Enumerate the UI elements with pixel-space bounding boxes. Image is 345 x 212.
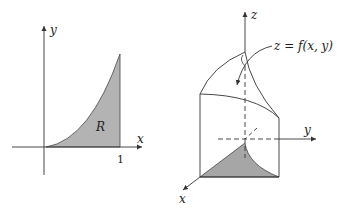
x-axis-label: x (179, 192, 186, 206)
surface-equation-label: z = f(x, y) (273, 39, 333, 53)
region-r-shading (46, 54, 120, 147)
x-axis-hidden (245, 128, 257, 139)
base-region-shading (200, 143, 279, 177)
surface-left-curve (200, 52, 245, 94)
diagram-canvas: x y R 1 z y x z = f(x, y) (0, 0, 345, 212)
surface-pointer-arrow (237, 46, 272, 85)
left-x-tick-1-label: 1 (117, 153, 124, 166)
z-axis-label: z (250, 8, 258, 22)
region-r-label: R (95, 120, 105, 134)
y-axis-label: y (303, 123, 311, 137)
surface-small-curve (241, 55, 245, 66)
right-figure-solid-plot: z y x z = f(x, y) (179, 8, 333, 206)
surface-front-curve (200, 94, 279, 118)
left-y-axis-label: y (49, 23, 57, 37)
left-figure-region-plot: x y R 1 (12, 23, 144, 175)
surface-right-curve (245, 52, 279, 118)
left-x-axis-label: x (137, 132, 144, 146)
x-axis (183, 177, 200, 190)
